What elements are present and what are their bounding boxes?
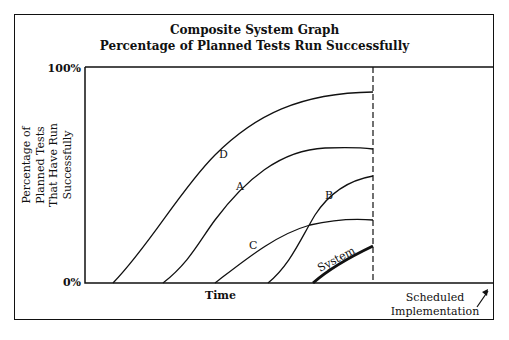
x-axis-label: Time xyxy=(205,289,236,302)
sched-line-1: Scheduled xyxy=(385,291,485,305)
curve-label-c: C xyxy=(249,239,257,252)
curve-label-b: B xyxy=(325,189,333,202)
curve-label-a: A xyxy=(235,180,245,193)
scheduled-implementation-label: Scheduled Implementation xyxy=(385,291,485,319)
plot-axes xyxy=(85,67,494,283)
chart-plot: D A B C System xyxy=(0,0,509,340)
sched-line-2: Implementation xyxy=(385,305,485,319)
curve-label-system: System xyxy=(315,244,358,275)
curve-label-d: D xyxy=(219,148,228,161)
